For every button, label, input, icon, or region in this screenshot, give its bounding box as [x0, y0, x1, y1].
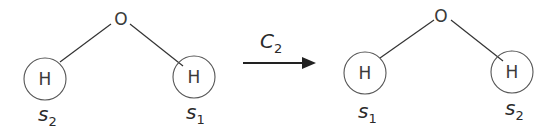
hydrogen-atom-right: H [506, 62, 519, 82]
molecule-before: O H H s2 s1 [24, 9, 215, 129]
bond-right [130, 24, 183, 66]
label-right-after: s2 [505, 96, 524, 123]
hydrogen-atom-left: H [39, 69, 52, 89]
oxygen-atom: O [114, 9, 127, 29]
molecule-after: O H H s1 s2 [344, 6, 533, 126]
bond-left [60, 24, 111, 62]
label-right-before: s1 [186, 100, 205, 127]
arrow-head-icon [302, 57, 316, 69]
hydrogen-atom-right: H [188, 67, 201, 87]
hydrogen-atom-left: H [359, 63, 372, 83]
bond-left [380, 20, 434, 58]
operation-arrow: C2 [243, 29, 316, 69]
c2-operation-diagram: O H H s2 s1 C2 O H H s1 s2 [0, 0, 555, 133]
oxygen-atom: O [434, 6, 447, 26]
label-left-after: s1 [358, 99, 377, 126]
operation-label: C2 [260, 29, 282, 56]
label-left-before: s2 [38, 102, 57, 129]
bond-right [451, 20, 503, 61]
